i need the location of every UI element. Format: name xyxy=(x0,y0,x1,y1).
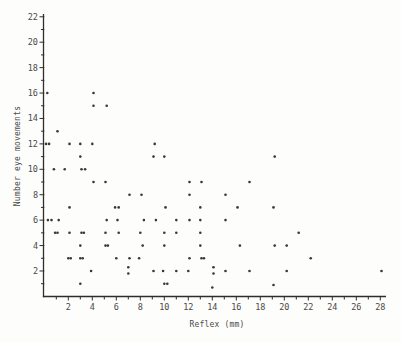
data-point xyxy=(163,282,166,285)
y-tick-label: 12 xyxy=(28,139,38,149)
data-point xyxy=(67,257,70,260)
data-point xyxy=(105,104,108,107)
y-tick-label: 10 xyxy=(28,164,38,174)
data-point xyxy=(91,143,94,146)
data-point xyxy=(163,232,166,235)
y-axis-title: Number eye movements xyxy=(13,106,22,206)
data-point xyxy=(68,143,71,146)
data-point xyxy=(48,143,51,146)
data-point xyxy=(285,244,288,247)
data-point xyxy=(239,244,242,247)
data-point xyxy=(116,219,119,222)
data-point xyxy=(84,168,87,171)
data-point xyxy=(45,143,48,146)
x-tick-label: 14 xyxy=(207,302,217,312)
data-point xyxy=(224,219,227,222)
data-point xyxy=(297,232,300,235)
data-point xyxy=(104,181,107,184)
data-point xyxy=(79,282,82,285)
data-point xyxy=(92,104,95,107)
data-point xyxy=(199,232,202,235)
data-point xyxy=(199,244,202,247)
data-point xyxy=(224,270,227,273)
data-point xyxy=(272,206,275,209)
data-point xyxy=(273,244,276,247)
data-point xyxy=(212,266,215,269)
data-point xyxy=(285,270,288,273)
data-point xyxy=(63,168,66,171)
scatter-plot-figure: 2468101214161820222426282468101214161820… xyxy=(0,0,401,343)
y-tick-label: 2 xyxy=(33,266,38,276)
data-point xyxy=(272,284,275,287)
data-point xyxy=(140,193,143,196)
y-tick-label: 18 xyxy=(28,63,38,73)
data-point xyxy=(143,219,146,222)
y-tick-label: 4 xyxy=(33,241,38,251)
data-point xyxy=(92,92,95,95)
data-point xyxy=(152,270,155,273)
data-point xyxy=(166,282,169,285)
x-tick-label: 8 xyxy=(138,302,143,312)
x-tick-label: 22 xyxy=(303,302,313,312)
data-point xyxy=(175,232,178,235)
data-point xyxy=(248,181,251,184)
y-tick-label: 16 xyxy=(28,88,38,98)
data-point xyxy=(236,206,239,209)
y-tick-label: 6 xyxy=(33,215,38,225)
data-point xyxy=(273,155,276,158)
data-point xyxy=(188,181,191,184)
x-tick-label: 16 xyxy=(231,302,241,312)
data-point xyxy=(79,257,82,260)
y-tick-label: 20 xyxy=(28,37,38,47)
x-tick-label: 26 xyxy=(351,302,361,312)
data-point xyxy=(138,257,141,260)
data-point xyxy=(164,206,167,209)
data-point xyxy=(104,244,107,247)
data-point xyxy=(163,244,166,247)
data-point xyxy=(127,266,130,269)
data-point xyxy=(155,219,158,222)
data-point xyxy=(199,206,202,209)
data-point xyxy=(105,219,108,222)
data-point xyxy=(68,206,71,209)
x-tick-label: 24 xyxy=(327,302,337,312)
data-point xyxy=(83,232,86,235)
data-point xyxy=(114,206,117,209)
data-point xyxy=(128,193,131,196)
data-point xyxy=(141,244,144,247)
data-point xyxy=(68,232,71,235)
data-point xyxy=(90,270,93,273)
data-point xyxy=(175,270,178,273)
y-tick-label: 22 xyxy=(28,12,38,22)
data-point xyxy=(203,257,206,260)
x-axis-title: Reflex (mm) xyxy=(189,320,244,329)
data-point xyxy=(139,232,142,235)
data-point xyxy=(54,232,57,235)
data-point xyxy=(80,168,83,171)
data-point xyxy=(188,193,191,196)
data-point xyxy=(57,219,60,222)
data-point xyxy=(162,270,165,273)
data-point xyxy=(115,257,118,260)
data-point xyxy=(128,257,131,260)
data-point xyxy=(69,257,72,260)
data-point xyxy=(107,244,110,247)
data-point xyxy=(380,270,383,273)
data-point xyxy=(56,130,59,133)
data-point xyxy=(47,219,50,222)
data-point xyxy=(200,181,203,184)
x-tick-label: 4 xyxy=(90,302,95,312)
data-point xyxy=(199,219,202,222)
data-point xyxy=(104,232,107,235)
x-tick-label: 2 xyxy=(66,302,71,312)
x-tick-label: 20 xyxy=(279,302,289,312)
data-point xyxy=(152,155,155,158)
x-tick-label: 18 xyxy=(255,302,265,312)
data-point xyxy=(79,244,82,247)
y-tick-label: 14 xyxy=(28,113,38,123)
data-point xyxy=(80,232,83,235)
data-point xyxy=(127,272,130,275)
data-point xyxy=(153,143,156,146)
data-point xyxy=(309,257,312,260)
data-point xyxy=(117,206,120,209)
